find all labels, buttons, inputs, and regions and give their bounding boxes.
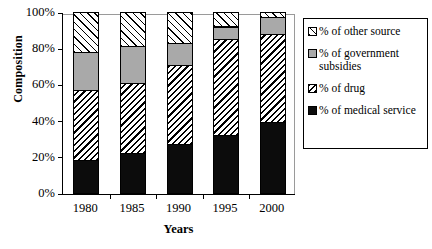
legend-item[interactable]: % of other source [308,25,424,38]
legend-item[interactable]: % of medical service [308,104,424,117]
legend-label: % of government subsidies [319,47,424,73]
bar-segment[interactable] [213,12,239,27]
bar-segment[interactable] [260,122,286,194]
x-axis-tick-label-2000: 2000 [242,201,302,216]
bar-segment[interactable] [167,43,193,66]
plot-area: 0%20%40%60%80%100% [62,14,295,195]
bar-segment[interactable] [73,12,99,53]
bar-segment[interactable] [213,135,239,194]
legend-swatch-icon [308,27,317,36]
bar-segment[interactable] [260,17,286,34]
bar-segment[interactable] [167,12,193,44]
y-axis-tick-mark [58,85,63,86]
x-axis-tick-mark [156,194,157,199]
x-axis-title: Years [62,222,295,237]
bar-segment[interactable] [260,12,286,18]
bar-2000[interactable] [260,14,286,194]
y-axis-tick-label: 0% [38,186,55,201]
bar-segment[interactable] [120,83,146,155]
bar-1985[interactable] [120,14,146,194]
bar-segment[interactable] [120,153,146,194]
bar-segment[interactable] [213,39,239,136]
y-axis-tick-label: 100% [26,5,55,20]
legend-item[interactable]: % of drug [308,82,424,95]
bar-segment[interactable] [73,160,99,194]
bar-segment[interactable] [73,52,99,91]
y-axis-tick-mark [58,49,63,50]
bar-segment[interactable] [120,46,146,83]
legend-swatch-icon [308,49,317,58]
y-axis-tick-mark [58,13,63,14]
legend-label: % of other source [319,25,400,38]
bar-segment[interactable] [120,12,146,47]
bar-segment[interactable] [167,144,193,194]
bar-segment[interactable] [167,65,193,146]
legend-item[interactable]: % of government subsidies [308,47,424,73]
y-axis-title: Composition [11,19,29,119]
bar-1980[interactable] [73,14,99,194]
chart-legend: % of other source% of government subsidi… [303,18,428,149]
x-axis-tick-mark [203,194,204,199]
x-axis-tick-mark [110,194,111,199]
stacked-bar-chart-figure: Composition 0%20%40%60%80%100% 198019851… [0,0,432,249]
y-axis-tick-label: 40% [32,114,55,129]
y-axis-tick-label: 80% [32,41,55,56]
bar-segment[interactable] [73,90,99,162]
x-axis-tick-mark [249,194,250,199]
y-axis-tick-mark [58,157,63,158]
bar-1990[interactable] [167,14,193,194]
bar-segment[interactable] [260,34,286,124]
bar-1995[interactable] [213,14,239,194]
y-axis-tick-mark [58,121,63,122]
y-axis-tick-label: 60% [32,77,55,92]
legend-swatch-icon [308,84,317,93]
legend-swatch-icon [308,106,317,115]
legend-label: % of medical service [319,104,416,117]
legend-label: % of drug [319,82,365,95]
y-axis-tick-mark [58,194,63,195]
bar-segment[interactable] [213,27,239,41]
y-axis-tick-label: 20% [32,150,55,165]
